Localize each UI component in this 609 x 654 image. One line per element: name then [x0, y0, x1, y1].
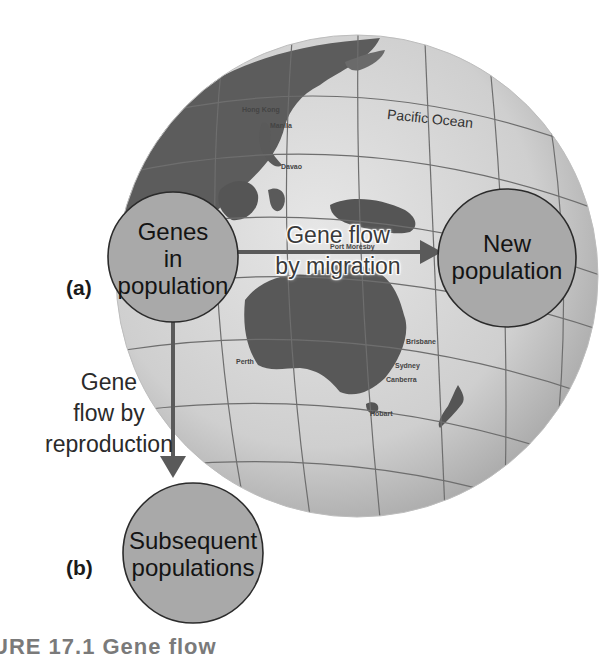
panel-label-a: (a)	[66, 276, 92, 300]
reproduction-line-2: flow by	[44, 398, 174, 429]
map-label-davao: Davao	[281, 163, 302, 170]
map-label-hong-kong: Hong Kong	[242, 106, 280, 113]
map-label-manila: Manila	[270, 122, 292, 129]
map-label-canberra: Canberra	[386, 376, 417, 383]
migration-label: Gene flow by migration	[258, 220, 418, 282]
source-line-3: population	[113, 272, 233, 299]
subsequent-line-1: Subsequent	[123, 527, 263, 554]
source-population-label: Genes in population	[113, 218, 233, 299]
new-population-label: New population	[442, 230, 572, 284]
subsequent-populations-label: Subsequent populations	[123, 527, 263, 581]
map-label-sydney: Sydney	[395, 362, 420, 369]
map-label-brisbane: Brisbane	[406, 338, 436, 345]
new-pop-line-2: population	[442, 257, 572, 284]
figure-caption: URE 17.1 Gene flow	[0, 634, 217, 654]
map-label-perth: Perth	[236, 358, 254, 365]
source-line-2: in	[113, 245, 233, 272]
map-label-hobart: Hobart	[370, 410, 393, 417]
new-pop-line-1: New	[442, 230, 572, 257]
migration-line-1: Gene flow	[258, 220, 418, 251]
source-line-1: Genes	[113, 218, 233, 245]
panel-label-b: (b)	[66, 556, 93, 580]
reproduction-line-3: reproduction	[44, 429, 174, 460]
migration-line-2: by migration	[258, 251, 418, 282]
reproduction-label: Gene flow by reproduction	[44, 367, 174, 460]
reproduction-line-1: Gene	[44, 367, 174, 398]
subsequent-line-2: populations	[123, 554, 263, 581]
